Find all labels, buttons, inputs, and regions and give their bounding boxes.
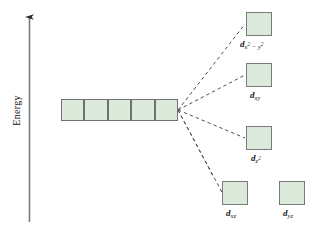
crystal-field-splitting-diagram: Energy dx2 − y2 dxy dz2 dxz dyz xyxy=(0,0,318,229)
orbital-label-dxz: dxz xyxy=(226,208,236,219)
energy-axis-label: Energy xyxy=(11,81,22,141)
degenerate-orbital-box-3 xyxy=(108,99,131,121)
orbital-label-dz2-sup: 2 xyxy=(258,155,261,161)
connector-to-dz2 xyxy=(178,110,245,138)
splitting-connector-lines xyxy=(178,24,245,196)
connector-to-dyz xyxy=(178,110,213,176)
orbital-label-dx2y2-minus: − xyxy=(250,43,258,50)
orbital-label-dx2y2: dx2 − y2 xyxy=(240,39,263,50)
orbital-box-dz2 xyxy=(246,126,272,150)
orbital-label-dxy-sub: xy xyxy=(255,94,261,101)
orbital-box-dxy xyxy=(246,63,272,87)
orbital-label-dx2y2-sup-y: 2 xyxy=(261,41,264,47)
connector-to-dx2y2 xyxy=(178,24,245,110)
degenerate-orbital-box-4 xyxy=(131,99,154,121)
degenerate-orbital-box-1 xyxy=(61,99,84,121)
orbital-label-dyz: dyz xyxy=(283,208,293,219)
orbital-box-dxz xyxy=(222,181,248,205)
orbital-label-dz2: dz2 xyxy=(251,153,261,164)
orbital-box-dyz xyxy=(279,181,305,205)
orbital-label-dyz-sub: yz xyxy=(288,212,294,219)
orbital-box-dx2y2 xyxy=(246,12,272,36)
orbital-label-dxz-sub: xz xyxy=(231,212,237,219)
connector-to-dxy xyxy=(178,75,245,110)
orbital-label-dxy: dxy xyxy=(250,90,260,101)
degenerate-orbital-box-2 xyxy=(84,99,107,121)
degenerate-orbital-box-5 xyxy=(155,99,178,121)
